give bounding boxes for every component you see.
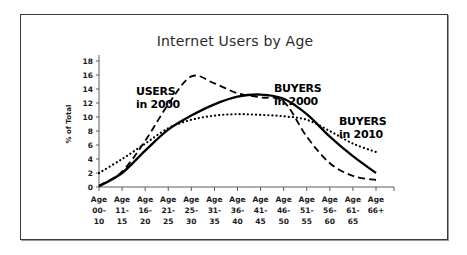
figure-container: Internet Users by Age 024681012141618 % …: [0, 0, 467, 255]
x-tick-label: Age: [91, 195, 107, 204]
x-tick-label: 50: [278, 217, 288, 226]
x-tick-label: Age: [206, 195, 222, 204]
x-tick-group: [99, 187, 394, 191]
y-tick-label: 18: [83, 57, 93, 66]
annotation-buyers-2000: BUYERS: [274, 82, 322, 95]
y-tick-label: 10: [83, 113, 93, 122]
x-tick-label: 25: [163, 217, 173, 226]
x-tick-label: 45: [255, 217, 265, 226]
x-tick-label: 20: [140, 217, 150, 226]
x-tick-label: 61-: [346, 206, 360, 215]
x-tick-label: Age: [276, 195, 292, 204]
x-tick-label: Age: [229, 195, 245, 204]
x-tick-label: Age: [345, 195, 361, 204]
annotation-users-2000: USERS: [136, 85, 176, 98]
y-axis-group: 024681012141618 % of Total: [65, 55, 99, 192]
y-tick-label: 16: [83, 71, 93, 80]
annotation-users-2000: in 2000: [136, 98, 181, 111]
series-line-dotted: [99, 114, 376, 173]
x-tick-label: 55: [302, 217, 312, 226]
x-axis-group: Age00-10Age11-15Age16-20Age21-25Age25-30…: [91, 187, 394, 226]
x-tick-label: Age: [299, 195, 315, 204]
y-tick-label: 8: [88, 127, 93, 136]
x-tick-label: 36-: [231, 206, 245, 215]
x-tick-label: 25-: [185, 206, 199, 215]
x-tick-label: 15: [117, 217, 127, 226]
x-tick-label: Age: [322, 195, 338, 204]
x-tick-label: 10: [94, 217, 104, 226]
chart-plot-area: 024681012141618 % of Total Age00-10Age11…: [21, 15, 449, 241]
y-axis-label: % of Total: [65, 105, 73, 144]
x-tick-label: 46-: [277, 206, 291, 215]
annotation-buyers-2000: in 2000: [274, 95, 319, 108]
y-tick-label: 14: [83, 85, 93, 94]
chart-frame: Internet Users by Age 024681012141618 % …: [20, 14, 448, 240]
x-tick-label-group: Age00-10Age11-15Age16-20Age21-25Age25-30…: [91, 195, 385, 226]
y-tick-label: 6: [88, 141, 93, 150]
x-tick-label: 65: [348, 217, 358, 226]
x-tick-label: Age: [137, 195, 153, 204]
x-tick-label: Age: [183, 195, 199, 204]
x-tick-label: Age: [252, 195, 268, 204]
annotation-buyers-2010: BUYERS: [339, 115, 387, 128]
x-tick-label: 35: [209, 217, 219, 226]
y-tick-label: 12: [83, 99, 93, 108]
x-tick-label: 11-: [115, 206, 129, 215]
x-tick-label: 60: [325, 217, 335, 226]
x-tick-label: Age: [114, 195, 130, 204]
x-tick-label: 00-: [92, 206, 106, 215]
x-tick-label: 16-: [138, 206, 152, 215]
x-tick-label: Age: [368, 195, 384, 204]
x-tick-label: 66+: [368, 206, 385, 215]
x-tick-label: 31-: [208, 206, 222, 215]
x-tick-label: 40: [232, 217, 242, 226]
y-tick-label: 2: [88, 169, 93, 178]
y-tick-group: 024681012141618: [83, 57, 99, 192]
annotation-group: USERSin 2000BUYERSin 2000BUYERSin 2010: [136, 82, 387, 141]
x-tick-label: 41-: [254, 206, 268, 215]
y-tick-label: 4: [88, 155, 93, 164]
x-tick-label: 21-: [161, 206, 175, 215]
x-tick-label: 30: [186, 217, 196, 226]
y-tick-label: 0: [88, 183, 93, 192]
annotation-buyers-2010: in 2010: [339, 128, 384, 141]
x-tick-label: 56-: [323, 206, 337, 215]
x-tick-label: Age: [160, 195, 176, 204]
x-tick-label: 51-: [300, 206, 314, 215]
